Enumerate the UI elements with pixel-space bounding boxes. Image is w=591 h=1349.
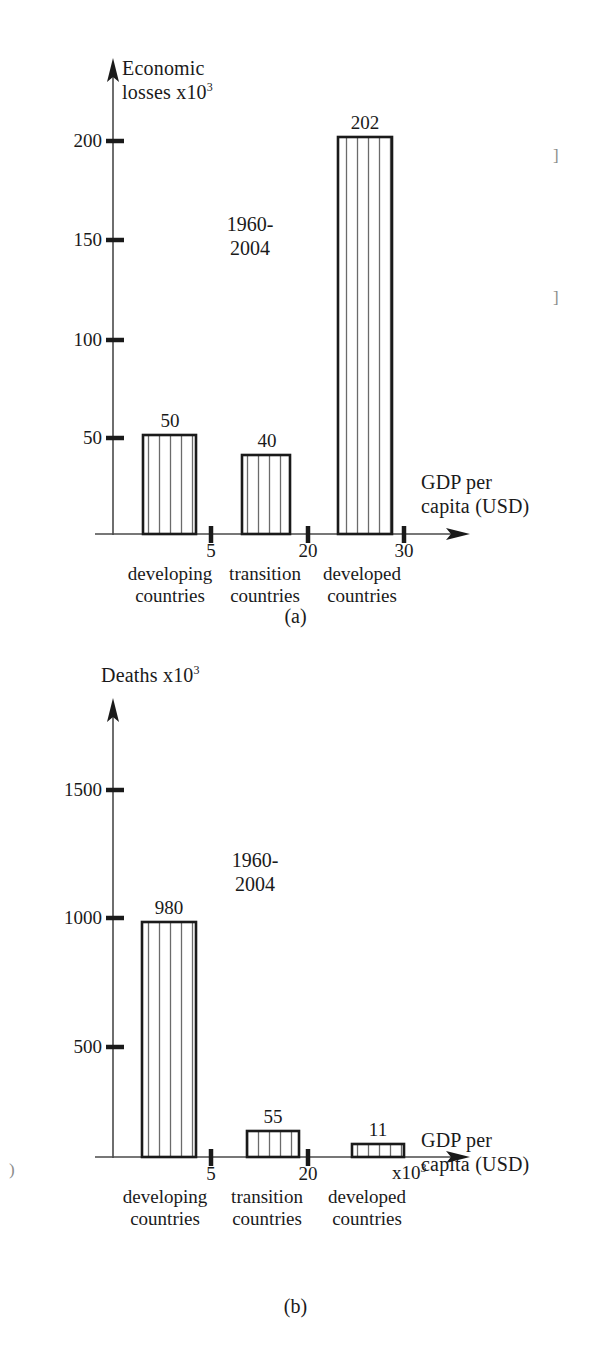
chart-a-period-annotation: 1960- 2004 — [195, 212, 305, 260]
chart-b-y-axis-title-line1: Deaths x10 — [101, 664, 194, 686]
chart-panel-b: Deaths x103 1500 1000 500 1960- 2004 980… — [0, 650, 591, 1349]
scan-artifact-bracket-top: ] — [553, 146, 559, 166]
chart-a-bar-value-developed: 202 — [331, 112, 399, 134]
chart-a-ytick-150: 150 — [40, 229, 102, 251]
chart-b-category-developed: developed countries — [308, 1186, 426, 1230]
chart-panel-a: Economic losses x103 200 150 100 50 1960… — [0, 0, 591, 650]
chart-b-y-axis-title: Deaths x103 — [101, 663, 200, 687]
chart-a-bar-value-developing: 50 — [140, 410, 200, 432]
chart-a-x-axis-title: GDP per capita (USD) — [421, 470, 529, 518]
chart-a-caption: (a) — [0, 605, 591, 628]
chart-a-ytick-50: 50 — [40, 427, 102, 449]
chart-a-category-developing-line2: countries — [135, 585, 205, 606]
chart-a-x-axis-title-line1: GDP per — [421, 471, 492, 493]
chart-b-caption: (b) — [0, 1295, 591, 1318]
scan-artifact-paren-left: ) — [9, 1160, 15, 1180]
chart-a-category-developed: developed countries — [303, 563, 421, 607]
chart-b-category-transition: transition countries — [211, 1186, 323, 1230]
chart-b-category-developed-line2: countries — [332, 1208, 402, 1229]
figure-container: Economic losses x103 200 150 100 50 1960… — [0, 0, 591, 1349]
scan-artifact-bracket-middle: ] — [553, 288, 559, 308]
chart-a-category-transition-line1: transition — [229, 563, 301, 584]
chart-b-bar-value-developed: 11 — [350, 1119, 406, 1141]
chart-a-category-developed-line1: developed — [323, 563, 401, 584]
chart-b-graphics — [0, 650, 591, 1349]
chart-b-bar-value-developing: 980 — [136, 897, 202, 919]
chart-a-category-transition-line2: countries — [230, 585, 300, 606]
chart-a-period-line2: 2004 — [230, 237, 270, 259]
chart-b-category-transition-line2: countries — [232, 1208, 302, 1229]
chart-b-x-axis-scale: x103 — [392, 1162, 452, 1184]
chart-b-xtick-20: 20 — [288, 1163, 328, 1185]
chart-b-ytick-1000: 1000 — [30, 907, 102, 929]
chart-a-ytick-100: 100 — [40, 329, 102, 351]
chart-a-category-developed-line2: countries — [327, 585, 397, 606]
chart-b-category-developing: developing countries — [104, 1186, 226, 1230]
chart-a-y-axis-title-exponent: 3 — [207, 80, 213, 94]
chart-b-ytick-1500: 1500 — [30, 779, 102, 801]
chart-a-y-axis-title-line1: Economic — [122, 57, 205, 79]
chart-a-y-axis-title-line2: losses x10 — [122, 81, 207, 103]
chart-a-category-developing-line1: developing — [128, 563, 212, 584]
chart-a-xtick-20: 20 — [288, 540, 328, 562]
chart-b-xtick-5: 5 — [191, 1163, 231, 1185]
chart-a-ytick-200: 200 — [40, 130, 102, 152]
chart-b-period-line1: 1960- — [232, 849, 279, 871]
chart-a-period-line1: 1960- — [227, 213, 274, 235]
chart-b-x-axis-scale-base: x10 — [392, 1162, 421, 1183]
chart-b-x-axis-title-line1: GDP per — [421, 1129, 492, 1151]
chart-a-xtick-30: 30 — [384, 540, 424, 562]
chart-b-ytick-500: 500 — [30, 1036, 102, 1058]
chart-b-period-annotation: 1960- 2004 — [200, 848, 310, 896]
chart-b-period-line2: 2004 — [235, 873, 275, 895]
chart-b-category-developed-line1: developed — [328, 1186, 406, 1207]
chart-b-category-developing-line1: developing — [123, 1186, 207, 1207]
chart-a-y-axis-title: Economic losses x103 — [122, 56, 213, 104]
chart-b-category-developing-line2: countries — [130, 1208, 200, 1229]
chart-b-category-transition-line1: transition — [231, 1186, 303, 1207]
chart-b-x-axis-scale-exponent: 3 — [421, 1161, 427, 1175]
chart-b-y-axis-title-exponent: 3 — [194, 663, 200, 677]
chart-b-bar-value-transition: 55 — [245, 1106, 301, 1128]
chart-a-xtick-5: 5 — [191, 540, 231, 562]
chart-a-x-axis-title-line2: capita (USD) — [421, 495, 529, 517]
chart-a-bar-value-transition: 40 — [237, 430, 297, 452]
